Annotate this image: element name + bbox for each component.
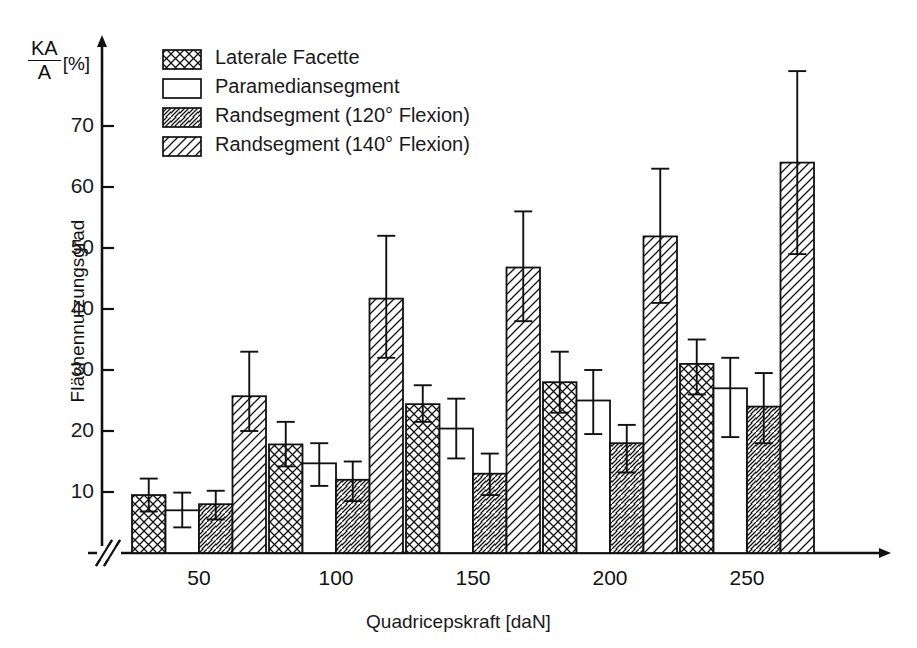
bar-groups <box>132 163 814 553</box>
y-axis-symbol: KA A [%] <box>28 38 90 83</box>
legend-swatch-3 <box>163 137 201 156</box>
y-symbol-denominator: A <box>28 61 61 83</box>
x-tick-label: 150 <box>433 566 513 590</box>
y-tick-label: 60 <box>54 174 94 198</box>
y-symbol-numerator: KA <box>28 38 61 61</box>
figure-bar-chart: KA A [%] Flächennutzungsgrad Quadricepsk… <box>0 0 917 648</box>
legend-label-1: Paramediansegment <box>215 75 400 98</box>
legend-swatch-0 <box>163 50 201 69</box>
chart-svg <box>0 0 917 648</box>
legend-label-3: Randsegment (140° Flexion) <box>215 133 470 156</box>
x-tick-label: 250 <box>707 566 787 590</box>
y-tick-label: 20 <box>54 418 94 442</box>
y-tick-label: 10 <box>54 479 94 503</box>
x-tick-label: 50 <box>159 566 239 590</box>
y-tick-label: 70 <box>54 113 94 137</box>
y-tick-label: 30 <box>54 357 94 381</box>
x-axis-title: Quadricepskraft [daN] <box>0 611 917 633</box>
legend-label-2: Randsegment (120° Flexion) <box>215 104 470 127</box>
y-symbol-unit: [%] <box>61 54 90 74</box>
legend-swatches <box>163 50 201 156</box>
x-tick-label: 100 <box>296 566 376 590</box>
y-tick-marks <box>102 126 114 492</box>
legend-swatch-2 <box>163 108 201 127</box>
legend-swatch-1 <box>163 79 201 98</box>
y-tick-label: 40 <box>54 296 94 320</box>
x-tick-label: 200 <box>570 566 650 590</box>
legend-label-0: Laterale Facette <box>215 46 360 69</box>
bar <box>406 404 440 553</box>
y-tick-label: 50 <box>54 235 94 259</box>
